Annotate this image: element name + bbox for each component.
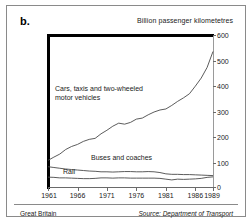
series-label-cars: Cars, taxis and two-wheeled motor vehicl…	[55, 84, 143, 102]
footer-region: Great Britain	[20, 210, 57, 217]
chart-frame: b. Billion passenger kilometetres 600 50…	[6, 5, 246, 217]
series-label-cars-line1: Cars, taxis and two-wheeled	[55, 84, 143, 93]
footer-source: Source: Department of Transport	[138, 210, 233, 217]
series-label-buses: Buses and coaches	[91, 153, 152, 162]
figure-footer: Great Britain Source: Department of Tran…	[14, 204, 238, 223]
series-label-rail: Rail	[63, 167, 75, 176]
series-line-rail	[48, 177, 213, 180]
chart-lines	[7, 6, 247, 218]
series-line-cars	[48, 51, 213, 160]
series-label-cars-line2: motor vehicles	[55, 93, 143, 102]
figure-panel-b: b. Billion passenger kilometetres 600 50…	[0, 0, 252, 223]
